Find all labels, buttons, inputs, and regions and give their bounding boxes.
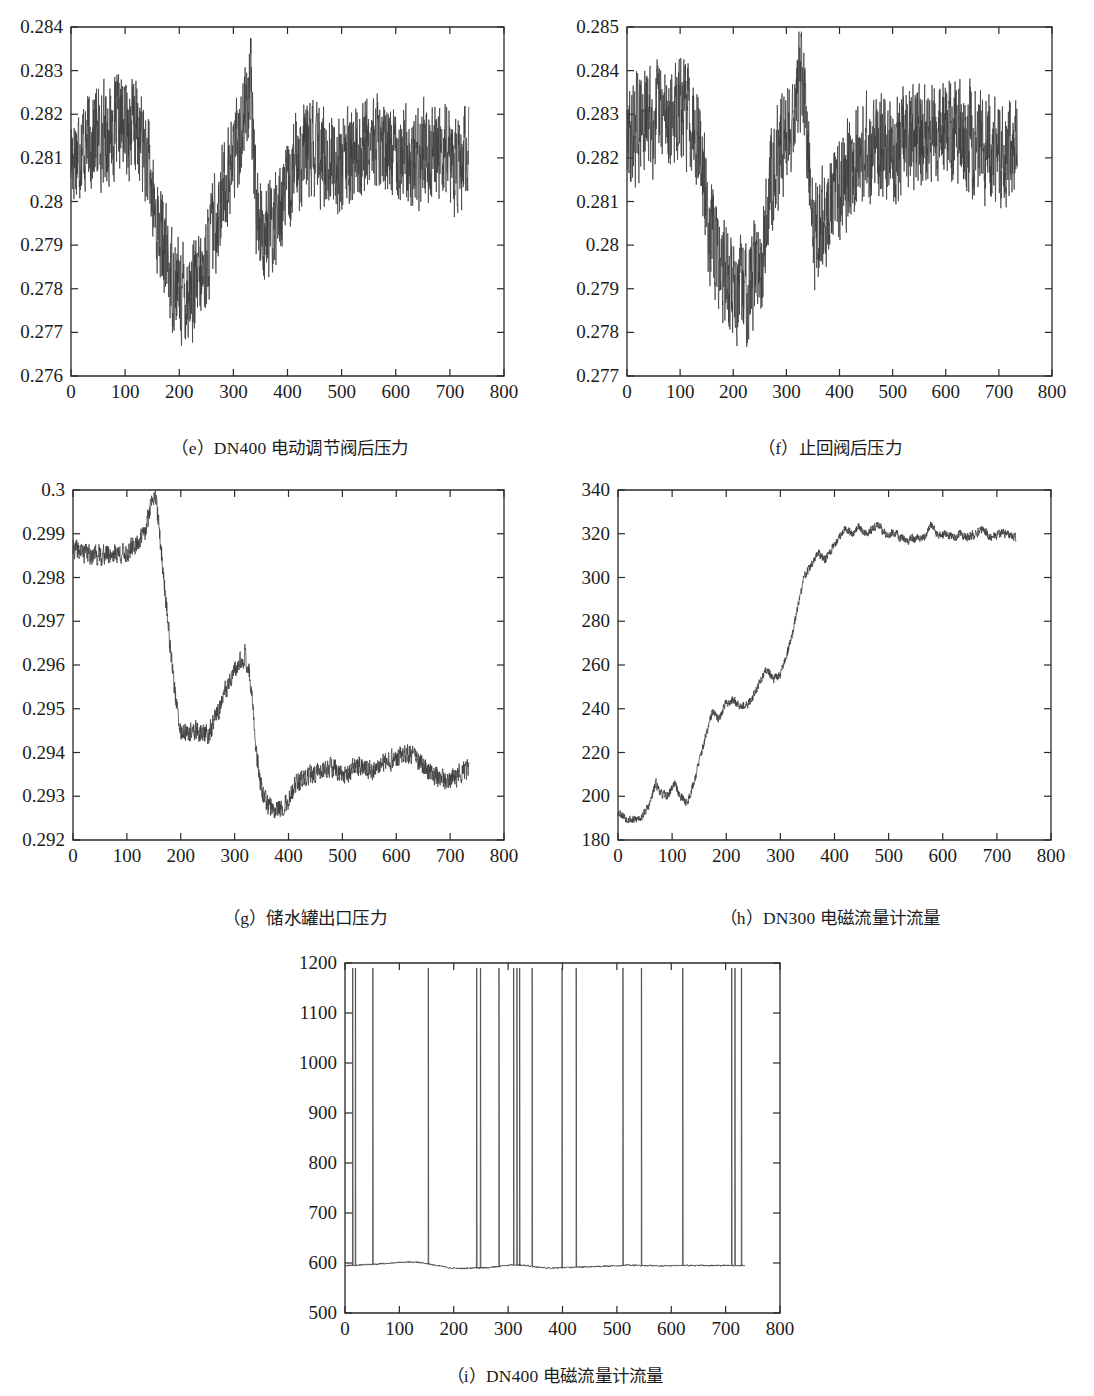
caption-g: （g）储水罐出口压力 [135,904,475,929]
y-tick-label: 1000 [299,1052,337,1073]
y-tick-label: 700 [309,1202,338,1223]
y-tick-label: 0.278 [20,278,63,299]
y-tick-label: 0.298 [22,567,65,588]
x-tick-label: 300 [766,845,795,866]
y-tick-label: 0.299 [22,523,65,544]
y-tick-label: 600 [309,1252,338,1273]
x-tick-label: 100 [385,1318,414,1339]
x-tick-label: 0 [622,381,632,402]
x-tick-label: 800 [490,381,519,402]
y-tick-label: 900 [309,1102,338,1123]
x-tick-label: 400 [820,845,849,866]
data-series-line [345,968,745,1269]
chart-svg-g: 0.2920.2930.2940.2950.2960.2970.2980.299… [0,470,547,890]
x-tick-label: 200 [712,845,741,866]
y-tick-label: 0.281 [576,191,619,212]
y-tick-label: 280 [582,610,611,631]
caption-f: （f）止回阀后压力 [660,434,1000,459]
x-tick-label: 0 [66,381,76,402]
y-tick-label: 0.285 [576,16,619,37]
y-tick-label: 0.283 [576,103,619,124]
x-tick-label: 800 [490,845,519,866]
x-tick-label: 600 [929,845,958,866]
y-tick-label: 0.277 [20,321,63,342]
x-tick-label: 200 [167,845,196,866]
x-tick-label: 300 [220,845,249,866]
x-tick-label: 200 [719,381,748,402]
x-tick-label: 500 [874,845,903,866]
y-tick-label: 340 [582,479,611,500]
y-tick-label: 0.284 [576,60,619,81]
x-tick-label: 0 [340,1318,350,1339]
y-tick-label: 0.28 [30,191,63,212]
caption-i: （i）DN400 电磁流量计流量 [375,1362,735,1387]
y-tick-label: 200 [582,785,611,806]
y-tick-label: 240 [582,698,611,719]
data-series-line [73,491,469,818]
x-tick-label: 300 [772,381,801,402]
y-tick-label: 0.3 [41,479,65,500]
y-tick-label: 0.297 [22,610,65,631]
chart-panel-i: 5006007008009001000110012000100200300400… [272,945,822,1360]
chart-panel-f: 0.2770.2780.2790.280.2810.2820.2830.2840… [547,0,1094,420]
x-tick-label: 0 [68,845,78,866]
y-tick-label: 0.293 [22,785,65,806]
y-tick-label: 0.28 [586,234,619,255]
x-tick-label: 500 [328,845,357,866]
y-tick-label: 0.281 [20,147,63,168]
chart-svg-i: 5006007008009001000110012000100200300400… [272,945,822,1360]
x-tick-label: 700 [983,845,1012,866]
x-tick-label: 800 [1038,381,1067,402]
plot-box [71,27,504,376]
y-tick-label: 0.283 [20,60,63,81]
x-tick-label: 500 [603,1318,632,1339]
chart-svg-e: 0.2760.2770.2780.2790.280.2810.2820.2830… [0,0,547,420]
y-tick-label: 0.292 [22,829,65,850]
y-tick-label: 800 [309,1152,338,1173]
y-tick-label: 1200 [299,952,337,973]
y-tick-label: 1100 [300,1002,337,1023]
chart-panel-h: 1802002202402602803003203400100200300400… [547,470,1094,890]
y-tick-label: 0.278 [576,321,619,342]
y-tick-label: 0.279 [20,234,63,255]
x-tick-label: 300 [494,1318,523,1339]
x-tick-label: 100 [666,381,695,402]
y-tick-label: 0.282 [576,147,619,168]
x-tick-label: 700 [436,845,465,866]
y-tick-label: 0.296 [22,654,65,675]
chart-svg-f: 0.2770.2780.2790.280.2810.2820.2830.2840… [547,0,1094,420]
y-tick-label: 0.284 [20,16,63,37]
chart-panel-g: 0.2920.2930.2940.2950.2960.2970.2980.299… [0,470,547,890]
data-series-line [71,38,469,346]
x-tick-label: 0 [613,845,623,866]
chart-svg-h: 1802002202402602803003203400100200300400… [547,470,1094,890]
y-tick-label: 260 [582,654,611,675]
x-tick-label: 200 [440,1318,469,1339]
y-tick-label: 500 [309,1302,338,1323]
x-tick-label: 400 [273,381,302,402]
x-tick-label: 300 [219,381,248,402]
y-tick-label: 0.277 [576,365,619,386]
y-tick-label: 0.279 [576,278,619,299]
data-series-line [627,32,1017,347]
x-tick-label: 200 [165,381,194,402]
y-tick-label: 320 [582,523,611,544]
x-tick-label: 700 [985,381,1014,402]
chart-panel-e: 0.2760.2770.2780.2790.280.2810.2820.2830… [0,0,547,420]
y-tick-label: 0.295 [22,698,65,719]
x-tick-label: 600 [382,845,411,866]
data-series-line [618,522,1016,823]
x-tick-label: 700 [436,381,465,402]
caption-h: （h）DN300 电磁流量计流量 [640,904,1020,929]
x-tick-label: 500 [327,381,356,402]
y-tick-label: 0.276 [20,365,63,386]
caption-e: （e）DN400 电动调节阀后压力 [100,434,480,459]
x-tick-label: 700 [711,1318,740,1339]
y-tick-label: 0.282 [20,103,63,124]
y-tick-label: 180 [582,829,611,850]
x-tick-label: 800 [766,1318,795,1339]
x-tick-label: 800 [1037,845,1066,866]
x-tick-label: 600 [932,381,961,402]
x-tick-label: 100 [111,381,140,402]
x-tick-label: 400 [825,381,854,402]
